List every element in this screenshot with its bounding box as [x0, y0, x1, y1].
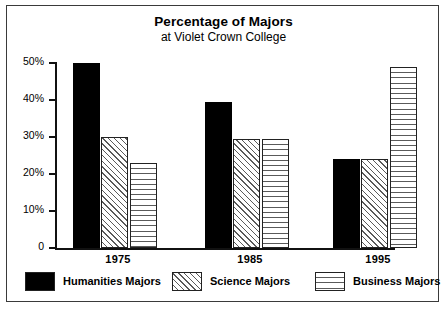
y-tick-label-10: 10% [10, 203, 44, 215]
y-tick-label-20: 20% [10, 166, 44, 178]
legend-swatch-science-icon [172, 272, 202, 291]
x-axis-line [55, 248, 395, 250]
chart-title: Percentage of Majors [7, 14, 440, 30]
chart-frame: Percentage of Majors at Violet Crown Col… [6, 5, 439, 302]
bar-group-1985: 1985 [205, 63, 295, 248]
bar-1985-humanities[interactable] [205, 102, 232, 248]
bar-group-1975: 1975 [73, 63, 163, 248]
legend-label-business: Business Majors [353, 275, 440, 287]
legend-swatch-business-icon [315, 272, 345, 291]
legend-label-science: Science Majors [210, 275, 290, 287]
legend-item-science[interactable]: Science Majors [172, 268, 290, 294]
y-tick-label-40: 40% [10, 92, 44, 104]
y-tick-label-30: 30% [10, 129, 44, 141]
y-tick-20: 20% [49, 173, 56, 175]
bar-1995-science[interactable] [361, 159, 388, 248]
legend-label-humanities: Humanities Majors [63, 275, 161, 287]
y-tick-label-0: 0 [10, 240, 44, 252]
legend-item-humanities[interactable]: Humanities Majors [25, 268, 161, 294]
bar-1995-humanities[interactable] [333, 159, 360, 248]
chart-figure: Percentage of Majors at Violet Crown Col… [0, 0, 446, 309]
y-axis-line [55, 62, 57, 249]
y-tick-50: 50% [49, 62, 56, 64]
y-tick-0: 0 [49, 247, 56, 249]
plot-area: 50% 40% 30% 20% 10% 0 1975 [55, 63, 393, 248]
bar-1975-humanities[interactable] [73, 63, 100, 248]
x-tick-label-1985: 1985 [205, 253, 295, 265]
bar-1985-business[interactable] [262, 139, 289, 248]
legend-item-business[interactable]: Business Majors [315, 268, 440, 294]
bar-1995-business[interactable] [390, 67, 417, 248]
x-tick-label-1975: 1975 [73, 253, 163, 265]
x-tick-label-1995: 1995 [333, 253, 423, 265]
y-tick-30: 30% [49, 136, 56, 138]
bar-group-1995: 1995 [333, 63, 423, 248]
chart-title-block: Percentage of Majors at Violet Crown Col… [7, 14, 440, 44]
chart-subtitle: at Violet Crown College [7, 31, 440, 45]
bar-1975-business[interactable] [130, 163, 157, 248]
bar-1985-science[interactable] [233, 139, 260, 248]
y-tick-10: 10% [49, 210, 56, 212]
y-tick-40: 40% [49, 99, 56, 101]
y-tick-label-50: 50% [10, 55, 44, 67]
chart-legend: Humanities Majors Science Majors Busines… [17, 268, 442, 300]
bar-1975-science[interactable] [101, 137, 128, 248]
legend-swatch-humanities-icon [25, 272, 55, 291]
